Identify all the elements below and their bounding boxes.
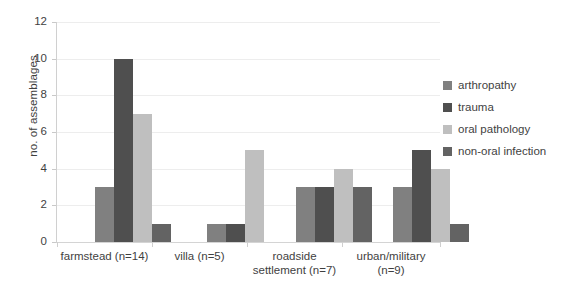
bar [114, 59, 133, 242]
y-axis-tick-label: 10 [0, 53, 47, 65]
legend-item: arthropathy [443, 74, 546, 96]
category-separator [342, 242, 343, 247]
bar [296, 187, 315, 242]
bar [334, 169, 353, 242]
bar [353, 187, 372, 242]
category-separator [247, 242, 248, 247]
legend-item-label: trauma [458, 101, 494, 113]
y-axis-tick-label: 12 [0, 16, 47, 28]
bar [431, 169, 450, 242]
bar-chart: no. of assemblages 121086420 farmstead (… [0, 0, 561, 293]
category-separator [57, 242, 58, 247]
legend-swatch-icon [443, 147, 452, 156]
bar [393, 187, 412, 242]
bar [133, 114, 152, 242]
legend-item: trauma [443, 96, 546, 118]
bar [315, 187, 334, 242]
legend-item-label: arthropathy [458, 79, 516, 91]
category-separator [440, 242, 441, 247]
bar [226, 224, 245, 242]
y-axis-tick-label: 8 [0, 89, 47, 101]
bar [450, 224, 469, 242]
bar [412, 150, 431, 242]
legend-item: non-oral infection [443, 140, 546, 162]
bar [207, 224, 226, 242]
legend-swatch-icon [443, 125, 452, 134]
y-axis-tick-label: 4 [0, 163, 47, 175]
category-separator [152, 242, 153, 247]
gridline [57, 242, 440, 243]
bar [95, 187, 114, 242]
bar [152, 224, 171, 242]
legend-swatch-icon [443, 81, 452, 90]
y-axis-tick-label: 0 [0, 236, 47, 248]
bar-group [296, 22, 372, 242]
legend-item-label: non-oral infection [458, 145, 546, 157]
bar [245, 150, 264, 242]
legend-swatch-icon [443, 103, 452, 112]
x-axis-category-label: urban/military(n=9) [331, 250, 451, 277]
bar-group [95, 22, 171, 242]
legend-item-label: oral pathology [458, 123, 530, 135]
chart-legend: arthropathytraumaoral pathologynon-oral … [443, 74, 546, 162]
y-axis-tick-label: 2 [0, 199, 47, 211]
bar-group [207, 22, 283, 242]
legend-item: oral pathology [443, 118, 546, 140]
y-axis-tick-label: 6 [0, 126, 47, 138]
plot-area [57, 22, 440, 242]
